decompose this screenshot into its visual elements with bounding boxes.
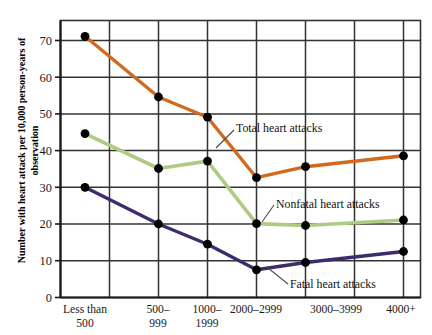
heart-attack-line-chart: Number with heart attack per 10,000 pers… bbox=[0, 0, 432, 335]
data-point bbox=[399, 151, 408, 160]
data-point bbox=[252, 219, 261, 228]
annotation-fatal-heart-attacks: Fatal heart attacks bbox=[290, 278, 376, 290]
x-tick-label-2000-2999: 2000–2999 bbox=[220, 303, 292, 317]
data-point bbox=[203, 240, 212, 249]
data-point bbox=[301, 258, 310, 267]
data-point bbox=[399, 216, 408, 225]
data-point bbox=[252, 265, 261, 274]
data-point bbox=[203, 157, 212, 166]
data-point bbox=[154, 164, 163, 173]
x-tick-label-3000-3999: 3000–3999 bbox=[300, 303, 372, 317]
data-point bbox=[81, 32, 90, 41]
data-point bbox=[203, 113, 212, 122]
data-point bbox=[301, 221, 310, 230]
x-tick-label-less-than-500: Less than 500 bbox=[52, 303, 118, 330]
data-point bbox=[399, 247, 408, 256]
annotation-nonfatal-heart-attacks: Nonfatal heart attacks bbox=[276, 198, 380, 210]
x-tick-label-4000-plus: 4000+ bbox=[374, 303, 428, 317]
data-point bbox=[252, 173, 261, 182]
data-point bbox=[301, 162, 310, 171]
data-point bbox=[81, 129, 90, 138]
data-point bbox=[81, 183, 90, 192]
data-point bbox=[154, 93, 163, 102]
data-point bbox=[154, 220, 163, 229]
annotation-total-heart-attacks: Total heart attacks bbox=[236, 122, 322, 134]
